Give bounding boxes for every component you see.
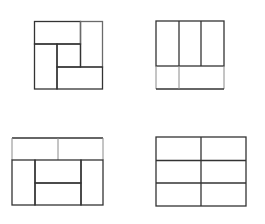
figure-pinwheel xyxy=(35,22,103,90)
pinwheel-top-rect xyxy=(35,22,81,45)
pinwheel-left-rect xyxy=(35,44,58,89)
figure-three-columns xyxy=(156,21,224,89)
figure-brick-layout xyxy=(12,138,103,205)
brick-left-rect xyxy=(12,160,35,205)
pinwheel-bottom-rect xyxy=(57,67,103,89)
columns-top-block xyxy=(156,21,224,66)
pinwheel-center-square xyxy=(57,44,81,67)
diagram-canvas xyxy=(0,0,265,224)
brick-right-rect xyxy=(81,160,103,205)
figure-grid xyxy=(156,137,246,206)
brick-middle-top-rect xyxy=(35,160,81,183)
brick-middle-bottom-rect xyxy=(35,183,81,205)
pinwheel-right-rect xyxy=(81,22,103,68)
